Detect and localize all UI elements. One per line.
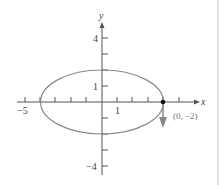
x-tick-label-1: 1 xyxy=(115,105,120,116)
y-axis-arrow-icon xyxy=(100,22,105,28)
y-tick-label-neg4: −4 xyxy=(86,161,97,172)
x-axis-label: x xyxy=(200,96,206,107)
ellipse-diagram: y x −5 1 4 1 −4 (0, −2) xyxy=(0,0,221,185)
y-axis-label: y xyxy=(98,10,104,21)
x-axis-arrow-icon xyxy=(194,100,200,105)
point-label: (0, −2) xyxy=(173,111,198,121)
y-tick-label-1: 1 xyxy=(93,81,98,92)
y-axis xyxy=(102,26,108,175)
x-tick-label-neg5: −5 xyxy=(17,105,28,116)
x-axis xyxy=(17,97,196,102)
marked-point xyxy=(161,100,166,105)
y-tick-label-4: 4 xyxy=(93,33,98,44)
page-edge-divider xyxy=(217,0,219,185)
down-arrow-icon xyxy=(159,117,167,128)
